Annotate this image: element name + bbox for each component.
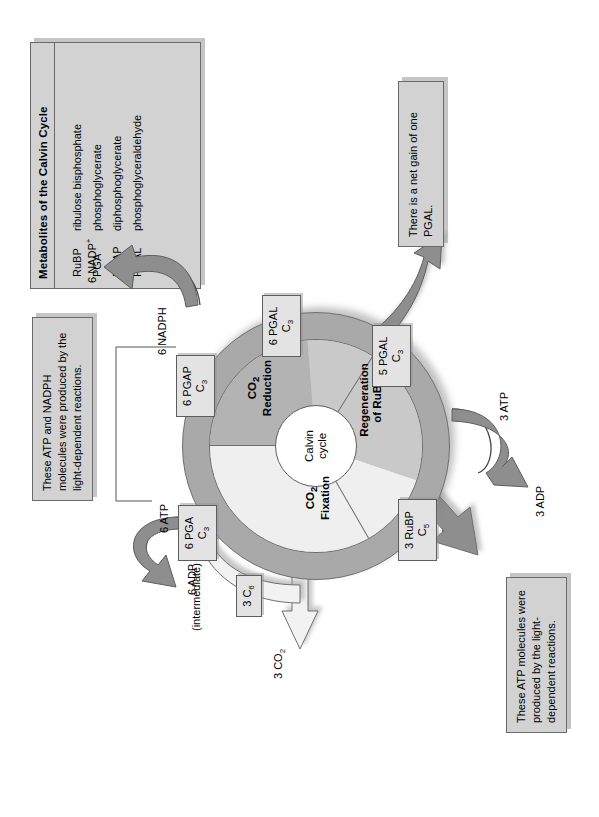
label-3-atp: 3 ATP [498, 392, 510, 421]
box-3-rubp-sub: 5 [422, 524, 431, 528]
hub-line-1: Calvin [303, 430, 315, 462]
label-3-co2: 3 CO2 [272, 649, 287, 679]
co2-fixation-text2: Fixation [319, 476, 331, 520]
hub-line-2: cycle [316, 433, 328, 459]
arrow-nadph-nadp [104, 245, 200, 307]
note-light-dependent-top: These ATP and NADPH molecules were produ… [32, 317, 93, 501]
label-6-adp: 6 ADP [186, 564, 198, 595]
box-3-rubp: 3 RuBP C5 [398, 499, 437, 561]
box-3-c6-text: 3 C [241, 590, 253, 607]
regeneration-text: Regeneration [358, 363, 370, 437]
box-6-pgap-c: C [194, 384, 206, 392]
label-co2-fixation: CO2 Fixation [304, 462, 333, 534]
box-5-pgal-c: C [390, 354, 402, 362]
box-3-rubp-line1: 3 RuBP [403, 511, 415, 549]
box-5-pgal-sub: 3 [396, 350, 405, 354]
co2-fixation-text: CO [304, 492, 316, 509]
label-6-nadph: 6 NADPH [156, 307, 168, 355]
box-6-pga: 6 PGA C3 [178, 505, 217, 561]
note-net-gain: There is a net gain of one PGAL. [398, 81, 444, 247]
co2-reduction-sub: 2 [250, 377, 261, 382]
label-co2-reduction: CO2 Reduction [246, 348, 275, 428]
box-3-c6-sub: 6 [247, 585, 256, 589]
bracket-light-dependent [116, 347, 176, 501]
label-6-atp: 6 ATP [158, 504, 170, 533]
diagram-canvas: Metabolites of the Calvin Cycle RuBP rib… [0, 0, 599, 817]
box-5-pgal: 5 PGAL C3 [372, 325, 411, 387]
label-6-nadp-text: 6 NADP [86, 243, 98, 283]
box-6-pgap-sub: 3 [200, 380, 209, 384]
label-6-nadp-sup: + [84, 239, 93, 244]
figure-page: Metabolites of the Calvin Cycle RuBP rib… [0, 0, 599, 817]
box-3-rubp-c: C [416, 528, 428, 536]
box-6-pgap-line1: 6 PGAP [181, 366, 193, 406]
box-3-c6: 3 C6 [236, 575, 262, 617]
box-6-pgal: 6 PGAL C3 [262, 295, 301, 357]
box-6-pgap: 6 PGAP C3 [176, 355, 215, 417]
label-3-co2-sub: 2 [278, 649, 287, 653]
co2-reduction-text: CO [246, 382, 258, 399]
box-6-pga-c: C [196, 531, 208, 539]
box-6-pgal-sub: 3 [286, 320, 295, 324]
label-6-nadp-plus: 6 NADP+ [84, 239, 98, 283]
box-6-pgal-c: C [280, 324, 292, 332]
co2-fixation-sub: 2 [308, 487, 319, 492]
label-3-co2-text: 3 CO [272, 653, 284, 679]
arrow-atp3-adp3 [452, 409, 528, 487]
box-5-pgal-line1: 5 PGAL [377, 337, 389, 376]
note-light-dependent-bottom: These ATP molecules were produced by the… [506, 577, 567, 733]
co2-reduction-text2: Reduction [261, 360, 273, 416]
box-6-pga-line1: 6 PGA [183, 517, 195, 549]
box-6-pgal-line1: 6 PGAL [267, 307, 279, 346]
box-6-pga-sub: 3 [202, 527, 211, 531]
label-3-adp: 3 ADP [534, 486, 546, 517]
